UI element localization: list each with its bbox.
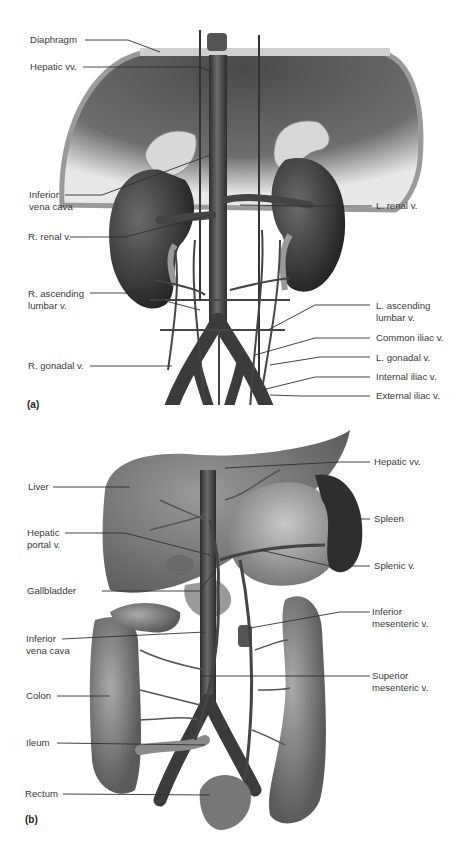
panel-a-tag: (a): [27, 399, 39, 410]
inferior-mesenteric-vein: [240, 560, 252, 780]
label-common-iliac: Common iliac v.: [376, 332, 444, 344]
label-hepatic-portal-1: Hepatic: [27, 527, 60, 539]
label-sup-mesenteric-2: mesenteric v.: [372, 682, 428, 694]
label-liver: Liver: [28, 481, 49, 493]
label-r-asc-lumbar-1: R. ascending: [28, 288, 84, 300]
r-kidney-shape: [109, 170, 194, 309]
label-r-gonadal: R. gonadal v.: [28, 360, 84, 372]
label-colon: Colon: [26, 690, 51, 702]
label-external-iliac: External iliac v.: [376, 390, 440, 402]
anatomy-figure: [0, 0, 465, 847]
colon-ascending: [90, 617, 141, 794]
panel-b-tag: (b): [25, 814, 38, 825]
label-splenic: Splenic v.: [374, 560, 415, 572]
label-internal-iliac: Internal iliac v.: [376, 371, 437, 383]
label-hepatic-vv-b: Hepatic vv.: [374, 456, 421, 468]
r-renal-vein: [160, 215, 212, 220]
rectum-shape: [200, 775, 251, 830]
label-inf-mesenteric-1: Inferior: [372, 606, 402, 618]
colon-descending: [269, 596, 326, 823]
label-l-renal: L. renal v.: [376, 200, 417, 212]
label-r-renal: R. renal v.: [28, 231, 71, 243]
diaphragm-shape: [62, 52, 421, 210]
label-l-asc-lumbar-2: lumbar v.: [376, 312, 415, 324]
label-ivc-a-2: vena cava: [29, 201, 73, 213]
label-ivc-b-2: vena cava: [26, 645, 70, 657]
label-l-asc-lumbar-1: L. ascending: [376, 300, 430, 312]
panel-b-illustration: [90, 430, 362, 830]
label-diaphragm: Diaphragm: [30, 34, 77, 46]
label-ivc-a-1: Inferior: [29, 189, 59, 201]
gallbladder-shape: [166, 555, 194, 575]
label-ileum: Ileum: [26, 737, 49, 749]
label-rectum: Rectum: [25, 788, 58, 800]
label-spleen: Spleen: [374, 513, 404, 525]
label-hepatic-portal-2: portal v.: [27, 539, 60, 551]
label-sup-mesenteric-1: Superior: [372, 670, 408, 682]
ivc-vessel: [209, 55, 227, 325]
label-ivc-b-1: Inferior: [26, 633, 56, 645]
panel-a-illustration: [62, 30, 421, 417]
label-r-asc-lumbar-2: lumbar v.: [28, 300, 67, 312]
label-hepatic-vv: Hepatic vv.: [30, 61, 77, 73]
label-gallbladder: Gallbladder: [27, 585, 76, 597]
label-l-gonadal: L. gonadal v.: [376, 352, 430, 364]
label-inf-mesenteric-2: mesenteric v.: [372, 618, 428, 630]
